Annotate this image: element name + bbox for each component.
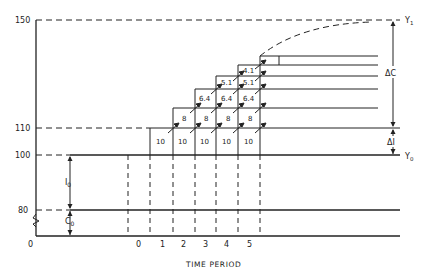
tick-80: 80 bbox=[18, 206, 28, 215]
period-label-5: 5 bbox=[247, 240, 252, 249]
cell-value: 10 bbox=[200, 138, 209, 146]
arrow-up-icon bbox=[68, 156, 73, 161]
cell-value: 4.1 bbox=[243, 67, 254, 75]
delta-c-label: ΔC bbox=[385, 69, 396, 78]
cell-value: 6.4 bbox=[199, 95, 211, 103]
period-label-2: 2 bbox=[181, 240, 186, 249]
growth-curve bbox=[260, 22, 372, 56]
arrow-up-icon bbox=[68, 211, 73, 216]
cell-value: 5.1 bbox=[243, 79, 254, 87]
cell-value: 5.1 bbox=[221, 79, 232, 87]
tick-150: 150 bbox=[15, 16, 30, 25]
arrow-down-icon bbox=[68, 204, 73, 209]
cell-value: 6.4 bbox=[243, 95, 255, 103]
arrow-down-icon bbox=[68, 230, 73, 235]
x-axis-title: TIME PERIOD bbox=[185, 260, 241, 269]
cell-value: 6.4 bbox=[221, 95, 233, 103]
cell-value: 8 bbox=[226, 115, 230, 123]
y0-label: Y0 bbox=[404, 152, 414, 162]
tick-0: 0 bbox=[28, 240, 33, 249]
cell-value: 8 bbox=[182, 115, 186, 123]
period-label-4: 4 bbox=[224, 240, 229, 249]
cell-value: 8 bbox=[248, 115, 252, 123]
cell-value: 10 bbox=[156, 138, 165, 146]
arrow-down-icon bbox=[391, 149, 396, 154]
delta-i-label: ΔI bbox=[387, 138, 395, 147]
tick-110: 110 bbox=[15, 124, 30, 133]
consumption-label: C0 bbox=[65, 217, 75, 227]
period-label-3: 3 bbox=[203, 240, 208, 249]
period-label-0: 0 bbox=[136, 240, 141, 249]
cell-value: 10 bbox=[222, 138, 231, 146]
period-label-1: 1 bbox=[160, 240, 165, 249]
y1-label: Y1 bbox=[404, 16, 413, 26]
tick-100: 100 bbox=[15, 151, 30, 160]
cell-value: 8 bbox=[204, 115, 208, 123]
multiplier-diagram: 150 110 100 80 0 I0 C0 0 1 2 3 4 5 TIME … bbox=[0, 0, 426, 279]
arrow-up-icon bbox=[391, 21, 396, 26]
cell-value: 10 bbox=[244, 138, 253, 146]
arrow-down-icon bbox=[391, 122, 396, 127]
cell-value: 10 bbox=[178, 138, 187, 146]
arrow-up-icon bbox=[391, 129, 396, 134]
